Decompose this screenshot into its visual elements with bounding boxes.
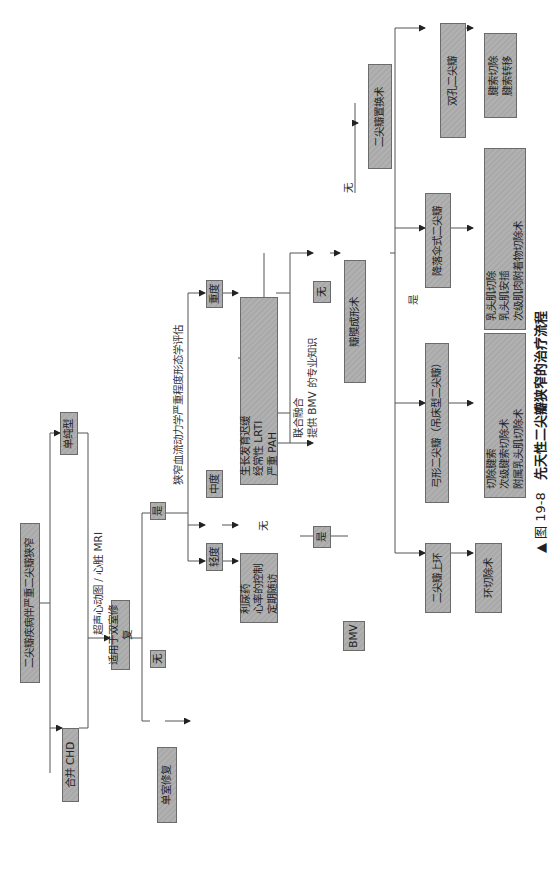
chd-node: 合并 CHD	[62, 728, 79, 802]
biventricular-node: 适用于双室修复	[111, 600, 130, 670]
supravalvular-ring-node: 二尖瓣上环	[425, 543, 451, 613]
moderate-node: 中度	[206, 470, 223, 498]
root-label: 二尖瓣疾病伴严重二尖瓣狭窄	[23, 538, 36, 668]
no-to-mvr-label: 无	[340, 183, 355, 193]
no-univentricular-node: 无	[150, 650, 166, 668]
flowchart-canvas: 二尖瓣疾病伴严重二尖瓣狭窄 单纯型 合并 CHD 超声心动图 / 心脏 MRI …	[0, 0, 554, 883]
double-orifice-surgery-node: 腱索切除 腱索转移	[484, 33, 517, 118]
imaging-label: 超声心动图 / 心脏 MRI	[90, 532, 105, 635]
no-bmv-label: 无	[315, 287, 328, 297]
medical-therapy-node: 利尿药 心率的控制 定期随访	[240, 553, 278, 623]
ring-resection-node: 环切除术	[475, 543, 502, 613]
simple-type-node: 单纯型	[60, 412, 78, 455]
yes-bmv-node: 是	[313, 526, 331, 548]
chd-label: 合并 CHD	[64, 742, 77, 789]
figure-caption: ▲ 图 19-8 先天性二尖瓣狭窄的治疗流程	[530, 311, 549, 553]
no-bmv-node: 无	[313, 281, 331, 303]
yes-biventricular-node: 是	[150, 502, 166, 520]
risk-factors-node: 生长发育迟缓 经常性 LRTI 严重 PAH	[240, 297, 278, 485]
arcade-valve-label: 弓形二尖瓣（吊床型二尖瓣）	[430, 358, 443, 488]
caption-title: 先天性二尖瓣狭窄的治疗流程	[533, 311, 548, 480]
biventricular-label: 适用于双室修复	[107, 604, 133, 666]
mild-label: 轻度	[208, 547, 221, 567]
simple-type-label: 单纯型	[62, 419, 75, 449]
moderate-label: 中度	[208, 474, 221, 494]
valvuloplasty-node: 瓣膜成形术	[344, 260, 366, 383]
severe-label: 重度	[208, 284, 221, 304]
parachute-surgery-node: 乳头肌切除 乳头肌安插 次级肌肉附着物切除术	[484, 148, 526, 330]
root-node: 二尖瓣疾病伴严重二尖瓣狭窄	[20, 523, 40, 683]
parachute-surgery-label: 乳头肌切除 乳头肌安插 次级肌肉附着物切除术	[485, 221, 524, 321]
mild-node: 轻度	[206, 543, 223, 571]
double-orifice-label: 双孔二尖瓣	[446, 56, 459, 106]
double-orifice-surgery-label: 腱索切除 腱索转移	[487, 56, 513, 96]
arcade-valve-node: 弓形二尖瓣（吊床型二尖瓣）	[425, 343, 449, 503]
yes-bmv-label: 是	[315, 532, 328, 542]
univentricular-node: 单室修复	[157, 747, 177, 823]
severe-node: 重度	[206, 280, 223, 308]
yes-biventricular-label: 是	[151, 506, 164, 516]
mvr-node: 二尖瓣置换术	[368, 64, 392, 169]
bmv-label: BMV	[347, 624, 360, 647]
valvuloplasty-label: 瓣膜成形术	[348, 297, 361, 347]
severity-eval-label: 狭窄血流动力学严重程度形态学评估	[170, 325, 185, 485]
arcade-surgery-node: 切除腱索 次级腱索切除术 附属乳头肌切除术	[484, 333, 526, 498]
yes-to-types-label: 是	[405, 295, 420, 305]
double-orifice-node: 双孔二尖瓣	[440, 23, 466, 138]
supravalvular-ring-label: 二尖瓣上环	[431, 553, 444, 603]
parachute-valve-label: 降落伞式二尖瓣	[431, 206, 444, 276]
consensus-label: 联合融合 提供 BMV 的专业知识	[291, 338, 319, 438]
no-univentricular-label: 无	[151, 654, 164, 664]
parachute-valve-node: 降落伞式二尖瓣	[425, 193, 451, 288]
risk-factors-label: 生长发育迟缓 经常性 LRTI 严重 PAH	[239, 416, 278, 476]
univentricular-label: 单室修复	[160, 765, 173, 805]
bmv-node: BMV	[343, 621, 365, 651]
no-from-risk-label: 无	[255, 521, 270, 531]
caption-prefix: ▲ 图 19-8	[533, 492, 548, 553]
arcade-surgery-label: 切除腱索 次级腱索切除术 附属乳头肌切除术	[485, 409, 524, 489]
mvr-label: 二尖瓣置换术	[373, 87, 386, 147]
ring-resection-label: 环切除术	[482, 558, 495, 598]
medical-therapy-label: 利尿药 心率的控制 定期随访	[239, 564, 278, 614]
